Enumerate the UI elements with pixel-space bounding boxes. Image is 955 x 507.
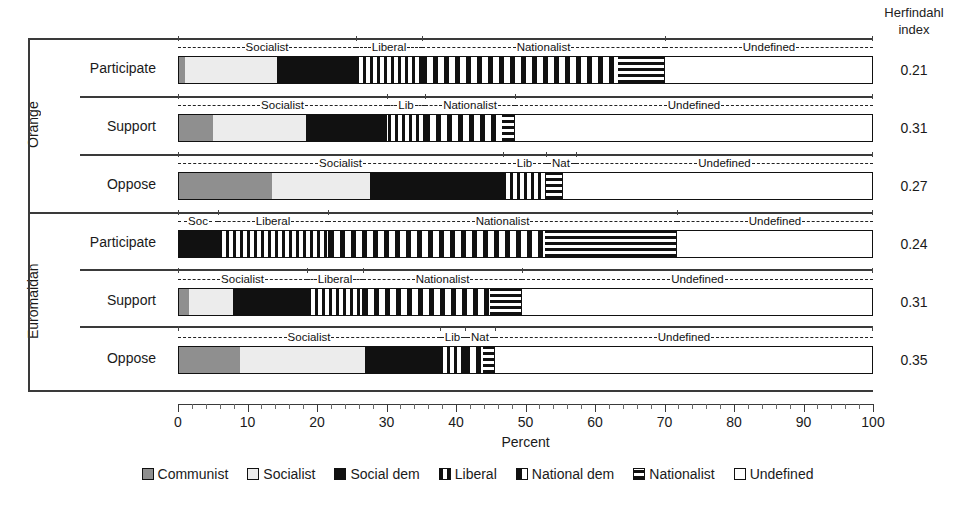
axis-tick-label: 20 <box>297 414 337 430</box>
annotation-undefined: Undefined <box>665 40 873 55</box>
annotation-nationalist: Nat <box>546 156 576 171</box>
socialist-swatch-icon <box>247 468 259 480</box>
axis-minor-tick <box>845 404 846 409</box>
annotation-strip-row5: Socialist Liberal Nationalist Undefined <box>178 272 873 287</box>
legend-item-communist: Communist <box>142 466 229 482</box>
axis-minor-tick <box>692 404 693 409</box>
row-label-orange-oppose: Oppose <box>38 176 156 192</box>
axis-tick-label: 0 <box>158 414 198 430</box>
axis-minor-tick <box>637 404 638 409</box>
axis-tick-label: 50 <box>506 414 546 430</box>
axis-minor-tick <box>275 404 276 409</box>
socialdem-swatch-icon <box>334 468 346 480</box>
bar-orange-participate <box>178 56 873 84</box>
axis-minor-tick <box>470 404 471 409</box>
axis-minor-tick <box>498 404 499 409</box>
axis-tick-label: 60 <box>575 414 615 430</box>
annotation-nationalist: Nationalist <box>425 98 515 113</box>
axis-major-tick <box>804 404 805 412</box>
segment-liberal <box>219 231 328 257</box>
axis-minor-tick <box>748 404 749 409</box>
axis-minor-tick <box>831 404 832 409</box>
annotation-nationalist: Nationalist <box>328 214 677 229</box>
bar-orange-support <box>178 114 873 142</box>
segment-communist <box>179 347 240 373</box>
legend-item-nationaldem: National dem <box>516 466 615 482</box>
nationalist-swatch-icon <box>633 468 645 480</box>
axis-major-tick <box>387 404 388 412</box>
rule-r4-r5 <box>80 269 873 271</box>
annotation-strip-row3: Socialist Lib Nat Undefined <box>178 156 873 171</box>
legend-item-label: Socialist <box>263 466 315 482</box>
axis-minor-tick <box>790 404 791 409</box>
axis-major-tick <box>665 404 666 412</box>
bar-euromaidan-participate <box>178 230 873 258</box>
row-label-orange-participate: Participate <box>38 60 156 76</box>
legend-item-label: Communist <box>158 466 229 482</box>
annotation-undefined: Undefined <box>495 330 873 345</box>
axis-tick-label: 40 <box>436 414 476 430</box>
annotation-socialist: Socialist <box>178 156 503 171</box>
axis-minor-tick <box>303 404 304 409</box>
axis-minor-tick <box>581 404 582 409</box>
segment-socialist <box>185 57 277 83</box>
axis-tick-label: 100 <box>853 414 893 430</box>
segment-social-dem <box>365 347 440 373</box>
annotation-liberal: Liberal <box>307 272 363 287</box>
segment-liberal <box>503 173 545 199</box>
axis-tick-label: 80 <box>714 414 754 430</box>
annotation-liberal: Lib <box>440 330 465 345</box>
legend-item-undefined: Undefined <box>734 466 814 482</box>
row-label-euromaidan-oppose: Oppose <box>38 350 156 366</box>
legend-item-label: Liberal <box>455 466 497 482</box>
segment-nationalist <box>546 173 563 199</box>
axis-minor-tick <box>206 404 207 409</box>
segment-undefined <box>563 173 872 199</box>
axis-minor-tick <box>289 404 290 409</box>
annotation-nationalist: Nationalist <box>422 40 665 55</box>
segment-social-dem <box>306 115 387 141</box>
axis-major-tick <box>317 404 318 412</box>
row-label-text: Support <box>107 292 156 308</box>
axis-minor-tick <box>553 404 554 409</box>
axis-minor-tick <box>678 404 679 409</box>
segment-undefined <box>665 57 872 83</box>
axis-minor-tick <box>373 404 374 409</box>
bar-orange-oppose <box>178 172 873 200</box>
rule-bottom <box>28 390 873 392</box>
rule-r5-r6 <box>80 326 873 328</box>
axis-minor-tick <box>817 404 818 409</box>
axis-minor-tick <box>512 404 513 409</box>
axis-major-tick <box>734 404 735 412</box>
annotation-undefined: Undefined <box>515 98 873 113</box>
axis-major-tick <box>456 404 457 412</box>
segment-undefined <box>515 115 872 141</box>
axis-major-tick <box>178 404 179 412</box>
herfindahl-header-line2: index <box>873 21 955 38</box>
axis-minor-tick <box>623 404 624 409</box>
segment-liberal <box>388 115 425 141</box>
row-label-text: Support <box>107 118 156 134</box>
annotation-liberal: Lib <box>503 156 546 171</box>
segment-social-dem <box>233 289 308 315</box>
herfindahl-header-line1: Herfindahl <box>873 4 955 21</box>
axis-tick-label: 70 <box>645 414 685 430</box>
segment-nationalist <box>490 289 522 315</box>
annotation-liberal: Lib <box>387 98 425 113</box>
herfindahl-value-row5: 0.31 <box>873 294 955 310</box>
annotation-liberal: Liberal <box>356 40 422 55</box>
annotation-socialist: Socialist <box>178 40 356 55</box>
axis-minor-tick <box>484 404 485 409</box>
segment-nationalist <box>618 57 665 83</box>
axis-tick-label: 30 <box>367 414 407 430</box>
annotation-strip-row2: Socialist Lib Nationalist Undefined <box>178 98 873 113</box>
axis-minor-tick <box>220 404 221 409</box>
legend-item-socialdem: Social dem <box>334 466 419 482</box>
segment-liberal <box>356 57 422 83</box>
axis-minor-tick <box>331 404 332 409</box>
segment-national-dem <box>425 115 502 141</box>
segment-communist <box>179 173 272 199</box>
row-label-text: Participate <box>90 60 156 76</box>
axis-minor-tick <box>442 404 443 409</box>
segment-nationalist <box>483 347 495 373</box>
